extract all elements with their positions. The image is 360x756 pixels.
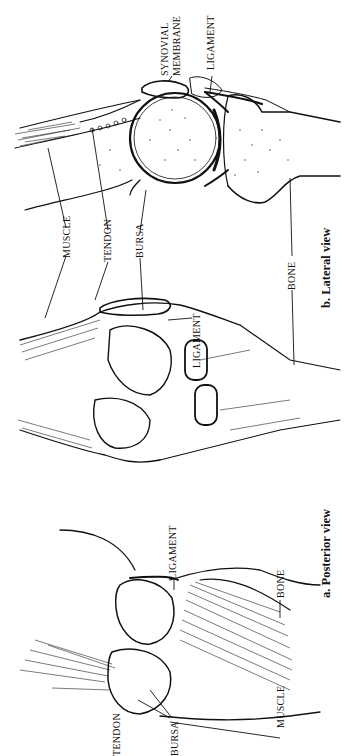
knee-joint-diagram: MUSCLE TENDON BURSA SYNOVIAL MEMBRANE LI… (0, 0, 360, 756)
label-synovial-line2: MEMBRANE (171, 16, 182, 76)
label-tendon-lateral: TENDON (102, 219, 113, 262)
femur-lower-edge (25, 180, 132, 210)
label-ligament-middle: LIGAMENT (191, 313, 202, 368)
femur-shaft-edge (15, 118, 140, 148)
posterior-condyle-upper (116, 580, 174, 644)
label-muscle-lateral: MUSCLE (61, 216, 72, 258)
label-tendon-posterior: TENDON (111, 713, 122, 756)
label-muscle-posterior: MUSCLE (275, 686, 286, 728)
label-bone-posterior: BONE (275, 570, 286, 598)
bursa-pad-middle (100, 298, 170, 315)
bone-stipple (99, 109, 288, 175)
label-ligament-top: LIGAMENT (205, 15, 216, 70)
lateral-view-panel: MUSCLE TENDON BURSA SYNOVIAL MEMBRANE LI… (15, 15, 340, 365)
caption-lateral-view: b. Lateral view (319, 228, 333, 308)
tibia-lower-edge (228, 176, 340, 203)
label-bone-lateral: BONE (286, 262, 297, 290)
tendon-fibers-posterior (20, 640, 115, 690)
patella (142, 81, 188, 98)
label-bursa-lateral: BURSA (134, 223, 145, 258)
lateral-external-knee: LIGAMENT (18, 298, 340, 462)
muscle-fibers (15, 122, 80, 146)
muscle-fibers-middle (18, 320, 300, 448)
posterior-view-panel: LIGAMENT TENDON BURSA MUSCLE BONE a. Pos… (20, 509, 333, 756)
label-bursa-posterior: BURSA (169, 721, 180, 756)
femoral-condyle (130, 93, 220, 183)
caption-posterior-view: a. Posterior view (319, 509, 333, 598)
label-synovial-line1: SYNOVIAL (159, 22, 170, 76)
label-ligament-posterior: LIGAMENT (167, 525, 178, 580)
